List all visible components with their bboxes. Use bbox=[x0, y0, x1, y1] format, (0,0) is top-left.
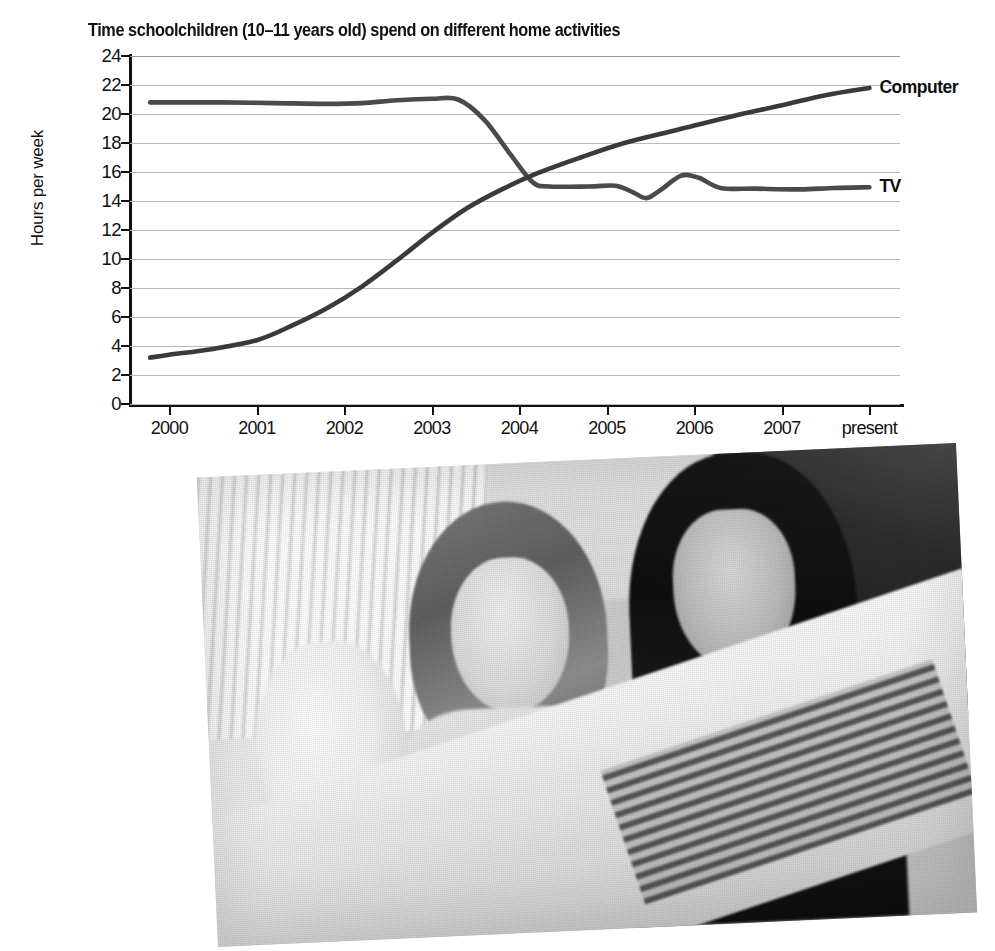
series-label-tv: TV bbox=[879, 176, 900, 197]
gridline bbox=[130, 404, 900, 405]
figure-root: Time schoolchildren (10–11 years old) sp… bbox=[0, 0, 995, 951]
y-axis-title: Hours per week bbox=[28, 98, 48, 278]
y-tick-mark bbox=[121, 229, 130, 231]
y-tick-mark bbox=[121, 287, 130, 289]
y-tick-label: 2 bbox=[111, 364, 121, 386]
x-tick-mark bbox=[257, 406, 259, 415]
y-tick-label: 24 bbox=[102, 45, 121, 67]
photograph-container bbox=[185, 452, 980, 948]
series-lines bbox=[130, 56, 900, 404]
y-tick-mark bbox=[121, 113, 130, 115]
x-tick-label: 2007 bbox=[763, 418, 800, 439]
x-tick-label: 2002 bbox=[326, 418, 363, 439]
y-tick-mark bbox=[121, 403, 130, 405]
y-tick-mark bbox=[121, 84, 130, 86]
y-tick-label: 20 bbox=[102, 103, 121, 125]
y-tick-mark bbox=[121, 142, 130, 144]
y-tick-label: 18 bbox=[102, 132, 121, 154]
x-tick-label: 2006 bbox=[676, 418, 713, 439]
x-tick-mark bbox=[869, 406, 871, 415]
y-tick-mark bbox=[121, 200, 130, 202]
x-tick-label: present bbox=[842, 418, 897, 439]
y-tick-mark bbox=[121, 171, 130, 173]
x-tick-mark bbox=[607, 406, 609, 415]
y-tick-mark bbox=[121, 374, 130, 376]
y-tick-label: 22 bbox=[102, 74, 121, 96]
x-tick-label: 2001 bbox=[238, 418, 275, 439]
line-chart: Time schoolchildren (10–11 years old) sp… bbox=[0, 0, 995, 440]
x-tick-label: 2000 bbox=[151, 418, 188, 439]
photograph-schoolgirls-at-computer bbox=[197, 443, 978, 947]
photo-vignette bbox=[197, 443, 978, 947]
y-tick-mark bbox=[121, 316, 130, 318]
chart-title: Time schoolchildren (10–11 years old) sp… bbox=[88, 20, 795, 41]
y-tick-label: 14 bbox=[102, 190, 121, 212]
y-tick-mark bbox=[121, 258, 130, 260]
x-tick-mark bbox=[344, 406, 346, 415]
y-tick-label: 10 bbox=[102, 248, 121, 270]
y-tick-label: 8 bbox=[111, 277, 121, 299]
x-tick-mark bbox=[782, 406, 784, 415]
plot-area: 242220181614121086420 200020012002200320… bbox=[130, 56, 900, 404]
y-tick-mark bbox=[121, 345, 130, 347]
y-tick-label: 6 bbox=[111, 306, 121, 328]
series-line-computer bbox=[150, 88, 869, 358]
y-tick-mark bbox=[121, 55, 130, 57]
x-tick-mark bbox=[169, 406, 171, 415]
y-tick-label: 12 bbox=[102, 219, 121, 241]
y-tick-label: 16 bbox=[102, 161, 121, 183]
x-tick-mark bbox=[519, 406, 521, 415]
x-tick-mark bbox=[432, 406, 434, 415]
x-tick-label: 2003 bbox=[413, 418, 450, 439]
y-tick-label: 4 bbox=[111, 335, 121, 357]
x-tick-label: 2004 bbox=[501, 418, 538, 439]
series-label-computer: Computer bbox=[879, 77, 958, 98]
y-tick-label: 0 bbox=[111, 393, 121, 415]
x-tick-label: 2005 bbox=[588, 418, 625, 439]
x-tick-mark bbox=[694, 406, 696, 415]
